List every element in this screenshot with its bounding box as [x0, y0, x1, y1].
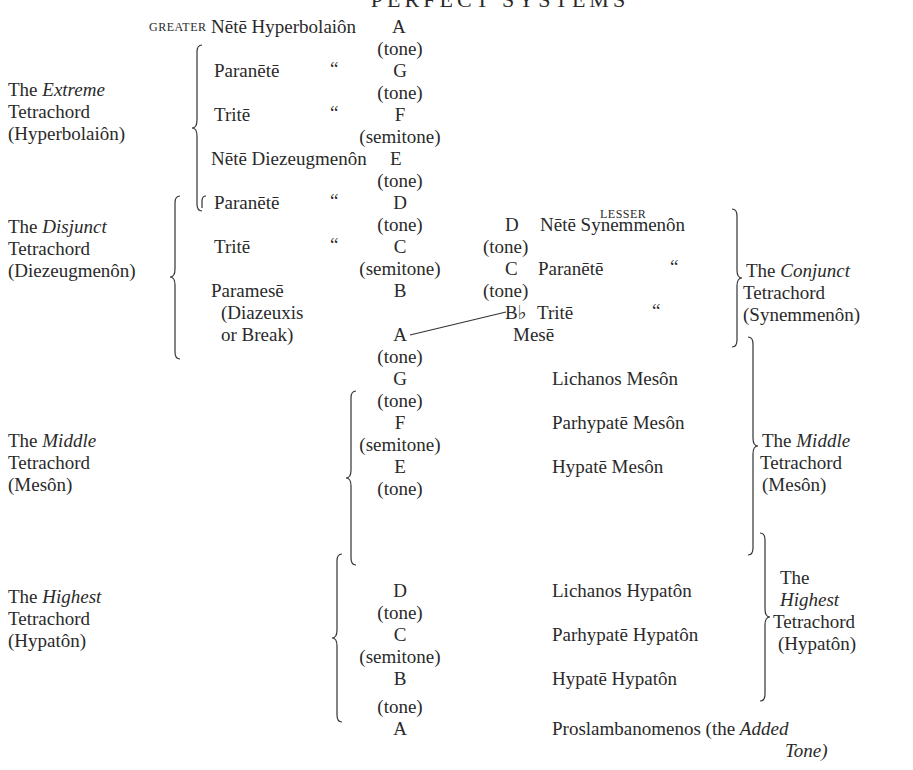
brace-middle-right [746, 336, 760, 556]
interval: (tone) [377, 38, 422, 60]
interval: (tone) [377, 82, 422, 104]
note: G [393, 368, 407, 390]
label-middle-tetrachord: The Middle [8, 430, 96, 452]
note: E [394, 456, 406, 478]
brace-extreme [190, 44, 204, 212]
label-middle-greek-right: (Mesôn) [762, 474, 826, 496]
interval: (tone) [377, 214, 422, 236]
note: E [390, 148, 402, 170]
string-trite: Tritē [214, 236, 250, 258]
note: D [393, 580, 407, 602]
string-trite-synemmenon: Tritē [537, 302, 573, 324]
brace-highest-right [758, 532, 772, 702]
brace-conjunct [730, 208, 744, 348]
interval: (tone) [377, 602, 422, 624]
label-highest-greek-right: (Hypatôn) [778, 633, 856, 655]
brace-disjunct [168, 195, 182, 360]
string-paranete: Paranētē [214, 192, 279, 214]
note: B [394, 280, 407, 302]
string-trite: Tritē [214, 104, 250, 126]
string-paranete-synemmenon: Paranētē [538, 258, 603, 280]
label-disjunct-word: Tetrachord [8, 238, 90, 260]
brace-middle-left [344, 390, 358, 566]
string-mese: Mesē [513, 324, 554, 346]
break-label: or Break) [221, 324, 293, 346]
string-nete-hyperbolaion: Nētē Hyperbolaiôn [211, 16, 356, 38]
interval: (tone) [377, 696, 422, 718]
label-middle-greek: (Mesôn) [8, 474, 72, 496]
note: C [394, 624, 407, 646]
string-lichanos-hypaton: Lichanos Hypatôn [552, 580, 692, 602]
label-middle-word-right: Tetrachord [760, 452, 842, 474]
greater-system-label: GREATER [149, 16, 207, 38]
interval: (tone) [483, 236, 528, 258]
label-disjunct-greek: (Diezeugmenôn) [8, 260, 136, 282]
string-parhypate-meson: Parhypatē Mesôn [552, 412, 684, 434]
interval: (semitone) [359, 434, 440, 456]
interval: (tone) [377, 346, 422, 368]
interval: (tone) [377, 390, 422, 412]
note: F [395, 412, 406, 434]
interval: (semitone) [359, 126, 440, 148]
interval: (tone) [483, 280, 528, 302]
string-hypate-meson: Hypatē Mesôn [552, 456, 663, 478]
ditto-mark: “ [330, 58, 338, 80]
label-extreme-tetrachord: The Extreme [8, 79, 105, 101]
note: F [395, 104, 406, 126]
string-paramese: Paramesē [211, 280, 284, 302]
interval: (tone) [377, 478, 422, 500]
string-nete-diezeugmenon: Nētē Diezeugmenôn [211, 148, 367, 170]
ditto-mark: “ [330, 102, 338, 124]
note-b-flat: B♭ [505, 302, 527, 324]
label-middle-word: Tetrachord [8, 452, 90, 474]
ditto-mark: “ [330, 234, 338, 256]
ditto-mark: “ [670, 256, 678, 278]
note: D [505, 214, 519, 236]
label-extreme-word: Tetrachord [8, 101, 90, 123]
note: D [393, 192, 407, 214]
ditto-mark: “ [330, 190, 338, 212]
string-nete-synemmenon: Nētē Synemmenôn [540, 214, 685, 236]
note: G [393, 60, 407, 82]
ditto-mark: “ [652, 300, 660, 322]
note-mese: A [393, 324, 407, 346]
label-highest-the-right: The [780, 567, 810, 589]
string-hypate-hypaton: Hypatē Hypatôn [552, 668, 677, 690]
page-title: PERFECT SYSTEMS [300, 0, 700, 13]
note: C [505, 258, 518, 280]
connector-line [408, 308, 508, 338]
label-highest-word-right: Tetrachord [773, 611, 855, 633]
note: A [393, 718, 407, 740]
interval: (tone) [377, 170, 422, 192]
brace-disjunct-inner [198, 195, 208, 209]
label-conjunct-tetrachord: The Conjunct [746, 260, 850, 282]
label-conjunct-greek: (Synemmenôn) [743, 304, 860, 326]
string-proslambanomenos: Proslambanomenos (the Added [552, 718, 788, 740]
diazeuxis-label: (Diazeuxis [221, 302, 303, 324]
interval: (semitone) [359, 258, 440, 280]
note: A [392, 16, 406, 38]
label-highest-word: Tetrachord [8, 608, 90, 630]
brace-highest-left [330, 553, 344, 723]
label-disjunct-tetrachord: The Disjunct [8, 216, 107, 238]
label-extreme-greek: (Hyperbolaiôn) [8, 123, 125, 145]
note: B [394, 668, 407, 690]
label-highest-tetrachord: The Highest [8, 586, 101, 608]
label-highest-greek: (Hypatôn) [8, 630, 86, 652]
added-tone-continuation: Tone) [785, 740, 828, 762]
label-conjunct-word: Tetrachord [743, 282, 825, 304]
label-highest-name-right: Highest [780, 589, 839, 611]
string-paranete: Paranētē [214, 60, 279, 82]
label-middle-tetrachord-right: The Middle [762, 430, 850, 452]
string-lichanos-meson: Lichanos Mesôn [552, 368, 678, 390]
interval: (semitone) [359, 646, 440, 668]
note: C [394, 236, 407, 258]
string-parhypate-hypaton: Parhypatē Hypatôn [552, 624, 698, 646]
